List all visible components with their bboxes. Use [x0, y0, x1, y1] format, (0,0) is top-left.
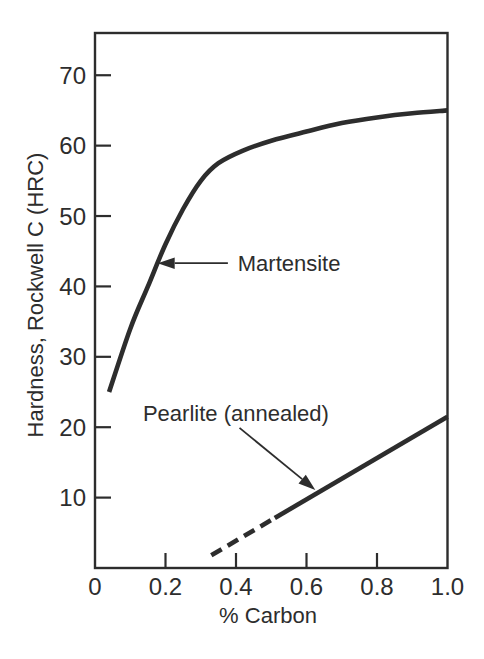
- y-tick-label: 70: [59, 62, 86, 89]
- y-tick-label: 40: [59, 273, 86, 300]
- x-tick-label: 1.0: [431, 573, 464, 600]
- y-tick-label: 10: [59, 484, 86, 511]
- pearlite-label-arrowhead-icon: [299, 475, 316, 490]
- y-tick-label: 60: [59, 132, 86, 159]
- y-axis-title: Hardness, Rockwell C (HRC): [22, 95, 50, 495]
- x-tick-label: 0.2: [149, 573, 182, 600]
- x-tick-label: 0.4: [219, 573, 252, 600]
- y-tick-label: 30: [59, 343, 86, 370]
- y-tick-label: 50: [59, 203, 86, 230]
- pearlite-annealed--curve: [275, 417, 448, 518]
- x-axis-title: % Carbon: [68, 602, 468, 630]
- x-tick-label: 0.6: [290, 573, 323, 600]
- pearlite-label-arrow-line: [240, 428, 303, 479]
- pearlite-label: Pearlite (annealed): [143, 401, 329, 426]
- y-tick-label: 20: [59, 414, 86, 441]
- hardness-vs-carbon-figure: 1020304050607000.20.40.60.81.0Martensite…: [0, 0, 484, 659]
- martensite-label: Martensite: [238, 251, 341, 276]
- chart-canvas: 1020304050607000.20.40.60.81.0Martensite…: [0, 0, 484, 659]
- x-tick-label: 0: [88, 573, 101, 600]
- pearlite-annealed-extrapolated-segment-curve: [211, 518, 274, 555]
- x-tick-label: 0.8: [360, 573, 393, 600]
